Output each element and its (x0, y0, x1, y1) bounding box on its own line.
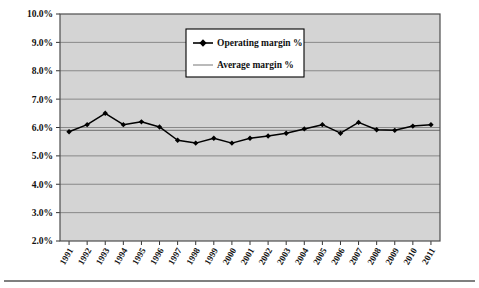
chart-legend: Operating margin % Average margin % (186, 29, 304, 77)
legend-box (186, 29, 304, 77)
y-axis-tick-label: 6.0% (32, 123, 53, 133)
y-axis-tick-label: 7.0% (32, 95, 53, 105)
y-axis-tick-label: 8.0% (32, 66, 53, 76)
y-axis-tick-label: 2.0% (32, 236, 53, 246)
y-axis-tick-label: 9.0% (32, 38, 53, 48)
x-axis-ticks (69, 241, 431, 245)
y-axis-tick-label: 3.0% (32, 208, 53, 218)
legend-label-average-margin: Average margin % (217, 60, 294, 70)
legend-label-operating-margin: Operating margin % (217, 38, 303, 48)
y-axis-tick-labels: 10.0%9.0%8.0%7.0%6.0%5.0%4.0%3.0%2.0% (27, 9, 53, 246)
y-axis-tick-label: 10.0% (27, 9, 53, 19)
chart-figure: 10.0%9.0%8.0%7.0%6.0%5.0%4.0%3.0%2.0% 19… (0, 0, 479, 288)
y-axis-tick-label: 4.0% (32, 180, 53, 190)
operating-margin-line-chart: 10.0%9.0%8.0%7.0%6.0%5.0%4.0%3.0%2.0% 19… (0, 0, 479, 288)
y-axis-tick-label: 5.0% (32, 151, 53, 161)
